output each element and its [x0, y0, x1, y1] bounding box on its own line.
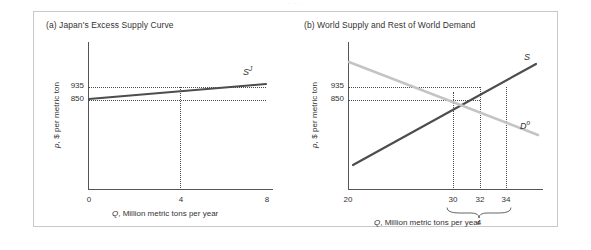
panel-a-x-axis-label: Q, Million metric tons per year — [112, 209, 218, 218]
panel-a-xtick-0: 0 — [78, 195, 100, 204]
panel-a-y-axis-label: p, $ per metric ton — [52, 82, 61, 148]
panel-b-title: (b) World Supply and Rest of World Deman… — [304, 20, 475, 30]
panel-b-demand-line — [349, 62, 538, 135]
panel-b-plot-area: S Do 935 850 20 30 32 34 4 — [348, 42, 543, 190]
scan-artifact-strip: · · · — [0, 0, 591, 8]
panel-a: (a) Japan's Excess Supply Curve p, $ per… — [34, 12, 296, 228]
panel-b: (b) World Supply and Rest of World Deman… — [296, 12, 558, 228]
panel-a-title: (a) Japan's Excess Supply Curve — [46, 20, 174, 30]
panel-a-plot-area: SJ 935 850 0 4 8 — [88, 42, 273, 190]
panel-b-x-axis-label: Q, Million metric tons per year — [374, 218, 480, 227]
panel-a-ytick-850: 850 — [58, 94, 84, 103]
panel-b-curve-label-do: Do — [520, 119, 530, 131]
panel-b-ytick-935: 935 — [318, 81, 344, 90]
panel-b-y-axis-label: p, $ per metric ton — [310, 82, 319, 148]
panel-b-xtick-20: 20 — [337, 195, 359, 204]
panel-a-curve-label-sj: SJ — [243, 65, 252, 77]
panel-a-xtick-4: 4 — [170, 195, 192, 204]
panel-b-curves-svg — [348, 42, 543, 190]
panel-b-supply-line — [353, 64, 536, 165]
panel-b-xtick-30: 30 — [442, 195, 464, 204]
panel-a-xtick-8: 8 — [256, 195, 278, 204]
panel-b-curve-label-s: S — [524, 52, 530, 62]
panel-a-ytick-935: 935 — [58, 81, 84, 90]
panel-b-xtick-32: 32 — [469, 195, 491, 204]
panel-b-ytick-850: 850 — [318, 94, 344, 103]
panel-b-xtick-34: 34 — [495, 195, 517, 204]
figure-frame: (a) Japan's Excess Supply Curve p, $ per… — [33, 11, 558, 227]
